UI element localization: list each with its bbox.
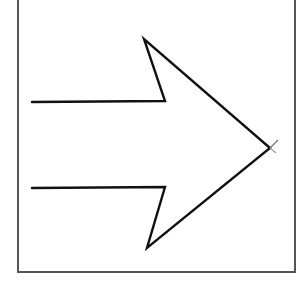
arrow-tip-overshoot-lower [270,148,276,153]
arrow-outline [32,39,270,248]
arrow-right-icon [0,0,307,282]
arrow-tip-overshoot-upper [270,140,278,148]
